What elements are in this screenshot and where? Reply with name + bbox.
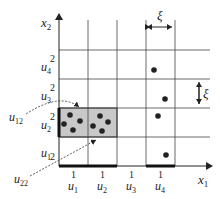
svg-text:u2: u2 <box>97 179 107 195</box>
svg-text:2: 2 <box>50 111 55 122</box>
callout-u22-arrow <box>30 140 96 176</box>
grid-lines <box>59 20 210 166</box>
callout-u22-label: u22 <box>14 172 28 188</box>
svg-text:2: 2 <box>50 82 55 93</box>
y-axis-label: x2 <box>40 15 51 32</box>
svg-text:u4: u4 <box>155 179 165 195</box>
x-interval-labels: 1 u1 1 u2 1 u3 1 u4 <box>68 169 165 195</box>
callout-u12-label: u12 <box>9 110 23 126</box>
grid-diagram: ξ ξ x2 x1 1 u1 1 u2 1 u3 1 u4 2 u1 2 u2 … <box>0 0 220 199</box>
x-axis-label: x1 <box>197 172 208 189</box>
svg-text:u1: u1 <box>68 179 78 195</box>
svg-text:2: 2 <box>50 53 55 64</box>
svg-text:u1: u1 <box>41 146 51 162</box>
xi-height-label: ξ <box>203 86 209 101</box>
xi-width-label: ξ <box>157 8 163 23</box>
svg-text:u3: u3 <box>126 179 136 195</box>
